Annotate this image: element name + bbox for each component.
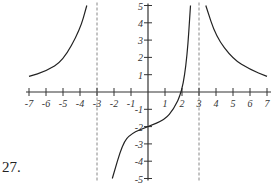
y-tick-label: -4	[135, 156, 143, 167]
x-tick-label: -4	[76, 98, 84, 109]
y-tick-label: -1	[135, 104, 143, 115]
x-tick-label: -6	[42, 98, 50, 109]
x-tick-label: -5	[59, 98, 67, 109]
x-tick-label: 5	[231, 98, 236, 109]
x-tick-label: -2	[110, 98, 118, 109]
y-tick-label: 3	[137, 35, 143, 46]
problem-number: 27.	[2, 159, 21, 176]
x-tick-label: -3	[93, 98, 101, 109]
x-tick-label: 1	[163, 98, 168, 109]
x-tick-label: -7	[25, 98, 34, 109]
y-tick-label: 2	[138, 52, 143, 63]
y-tick-label: -3	[135, 139, 143, 150]
y-tick-label: -5	[135, 174, 143, 185]
x-tick-label: 4	[214, 98, 219, 109]
function-curve	[206, 6, 267, 77]
function-curve	[29, 6, 87, 77]
x-tick-label: 3	[196, 98, 202, 109]
x-tick-label: 6	[248, 98, 253, 109]
x-tick-label: 7	[265, 98, 271, 109]
y-tick-label: 1	[138, 70, 143, 81]
x-tick-label: 2	[180, 98, 185, 109]
y-tick-label: 5	[138, 1, 143, 12]
function-graph: -7-6-5-4-3-2-11234567-5-4-3-2-112345	[0, 0, 275, 187]
y-tick-label: 4	[138, 18, 143, 29]
